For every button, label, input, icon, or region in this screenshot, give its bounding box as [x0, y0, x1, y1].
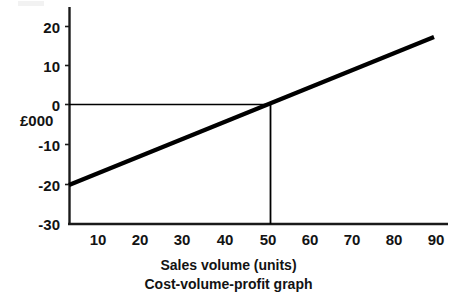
x-tick-label-60: 60: [302, 232, 319, 247]
x-tick-label-10: 10: [90, 232, 107, 247]
x-tick-label-80: 80: [386, 232, 403, 247]
profit-line: [69, 37, 434, 185]
cost-volume-profit-chart: £000 20 10 0 -10 -20 -30 10 20 30 40 50 …: [0, 0, 457, 295]
x-tick-label-70: 70: [344, 232, 361, 247]
figure-caption: Cost-volume-profit graph: [0, 277, 457, 291]
x-tick-label-50: 50: [260, 232, 277, 247]
x-tick-label-40: 40: [217, 232, 234, 247]
y-tick-label-neg30: -30: [14, 217, 60, 232]
y-tick-label-neg20: -20: [14, 178, 60, 193]
x-tick-label-20: 20: [132, 232, 149, 247]
y-tick-label-neg10: -10: [14, 138, 60, 153]
y-tick-label-0: 0: [14, 98, 60, 113]
y-tick-label-20: 20: [14, 20, 60, 35]
x-tick-label-90: 90: [428, 232, 445, 247]
y-tick-label-10: 10: [14, 59, 60, 74]
plot-area: [0, 0, 457, 295]
y-axis-title: £000: [20, 113, 53, 128]
x-axis-title: Sales volume (units): [0, 258, 457, 272]
x-tick-label-30: 30: [174, 232, 191, 247]
